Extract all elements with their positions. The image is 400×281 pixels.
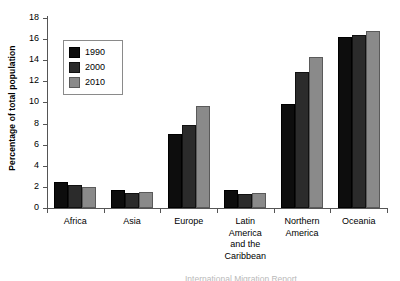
y-axis-tick-label: 4: [15, 160, 39, 171]
bar: [352, 35, 366, 208]
bar: [54, 182, 68, 208]
y-axis-tick-label: 18: [15, 12, 39, 23]
legend-swatch: [69, 77, 80, 88]
bar: [168, 134, 182, 208]
x-axis-category-label: Europe: [160, 216, 217, 228]
bar-group: [160, 18, 217, 208]
bar: [182, 125, 196, 208]
x-axis-tick-mark: [160, 208, 161, 213]
y-axis-tick-label: 16: [15, 33, 39, 44]
legend-label: 2010: [85, 77, 105, 88]
x-axis-tick-mark: [104, 208, 105, 213]
x-axis-tick-mark: [217, 208, 218, 213]
bar: [196, 106, 210, 208]
x-axis-category-label: Africa: [47, 216, 104, 228]
bar: [309, 57, 323, 208]
legend-label: 2000: [85, 62, 105, 73]
x-axis-category-label-line: Oceania: [330, 216, 387, 228]
bar: [82, 187, 96, 208]
bar: [281, 104, 295, 209]
x-axis-category-label-line: America: [274, 228, 331, 240]
bar-group: [217, 18, 274, 208]
x-axis-category-label: LatinAmericaand theCaribbean: [217, 216, 274, 262]
x-axis-category-label-line: and the: [217, 239, 274, 251]
x-axis-category-label-line: America: [217, 228, 274, 240]
bar: [252, 193, 266, 208]
legend-item: 1990: [69, 45, 117, 60]
x-axis-category-label-line: Asia: [104, 216, 161, 228]
bar: [366, 31, 380, 208]
y-axis-tick-label: 14: [15, 54, 39, 65]
legend-item: 2010: [69, 75, 117, 90]
x-axis-tick-mark: [47, 208, 48, 213]
legend-swatch: [69, 62, 80, 73]
bar: [295, 72, 309, 208]
legend-label: 1990: [85, 47, 105, 58]
x-axis-category-label-line: Northern: [274, 216, 331, 228]
x-axis-category-label-line: Caribbean: [217, 251, 274, 263]
x-axis-tick-mark: [274, 208, 275, 213]
y-axis-tick-label: 12: [15, 75, 39, 86]
x-axis-tick-mark: [330, 208, 331, 213]
x-axis-category-label-line: Latin: [217, 216, 274, 228]
y-axis-tick-label: 2: [15, 181, 39, 192]
bar: [125, 193, 139, 208]
bar: [139, 192, 153, 208]
chart-legend: 199020002010: [63, 40, 123, 95]
x-axis-category-label-line: Africa: [47, 216, 104, 228]
y-axis-tick-label: 8: [15, 118, 39, 129]
chart-figure: Percentage of total population 024681012…: [0, 0, 400, 281]
x-axis-category-label: Oceania: [330, 216, 387, 228]
bar: [224, 190, 238, 208]
x-axis-category-label-line: Europe: [160, 216, 217, 228]
legend-item: 2000: [69, 60, 117, 75]
legend-rows: 199020002010: [69, 45, 117, 90]
bar: [338, 37, 352, 208]
y-axis-tick-label: 10: [15, 96, 39, 107]
bar: [111, 190, 125, 208]
x-axis-category-label: Asia: [104, 216, 161, 228]
bar-group: [330, 18, 387, 208]
y-axis-tick-label: 0: [15, 202, 39, 213]
y-axis-tick-label: 6: [15, 139, 39, 150]
bar-group: [274, 18, 331, 208]
legend-swatch: [69, 47, 80, 58]
x-axis-category-label: NorthernAmerica: [274, 216, 331, 239]
bar: [68, 185, 82, 208]
bar: [238, 194, 252, 208]
x-axis-tick-mark: [387, 208, 388, 213]
clipped-caption-text: International Migration Report: [185, 274, 400, 281]
